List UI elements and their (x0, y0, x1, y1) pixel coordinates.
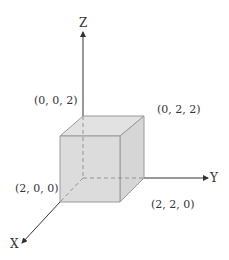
vertex-label-220: (2, 2, 0) (151, 198, 195, 211)
x-axis (22, 202, 60, 243)
y-axis-label: Y (209, 171, 219, 185)
cube-front-face (60, 136, 120, 202)
z-axis-label: Z (79, 16, 87, 30)
cube (60, 116, 144, 202)
vertex-label-022: (0, 2, 2) (157, 103, 201, 116)
vertex-label-002: (0, 0, 2) (34, 94, 78, 107)
coordinate-diagram: Z Y X (0, 0, 2) (0, 2, 2) (2, 0, 0) (2, … (0, 0, 229, 260)
x-axis-label: X (10, 237, 19, 251)
vertex-label-200: (2, 0, 0) (15, 182, 59, 195)
